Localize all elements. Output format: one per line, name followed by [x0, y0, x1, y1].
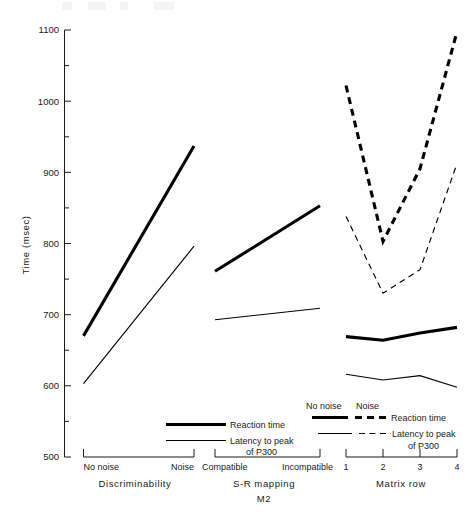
legend-right-label-latency-p300-line2: of P300 — [408, 441, 439, 451]
y-tick-label-1000: 1000 — [38, 96, 59, 107]
y-tick-label-600: 600 — [43, 380, 59, 391]
series-reaction-time-no-noise-panel3 — [346, 327, 457, 340]
series-latency-p300-no-noise-panel3 — [346, 374, 457, 387]
panel3-axis-title: Matrix row — [376, 478, 426, 489]
y-tick-label-500: 500 — [43, 451, 59, 462]
panel3-tick-label-2: 2 — [380, 462, 385, 472]
panel2-tick-label-compatible: Compatible — [202, 462, 248, 472]
legend-right-header-no-noise: No noise — [306, 401, 342, 411]
legend-right-label-latency-p300-line1: Latency to peak — [392, 429, 456, 439]
panel2-axis-title: S-R mapping — [233, 478, 295, 489]
panel1-axis-title: Discriminability — [99, 478, 172, 489]
legend-left-label-latency-p300-line2: of P300 — [246, 447, 277, 457]
legend-right-header-noise: Noise — [356, 401, 379, 411]
panel2-axis-subtitle: M2 — [257, 493, 271, 504]
series-latency-p300-panel1 — [84, 246, 195, 383]
panel2-tick-label-incompatible: Incompatible — [282, 462, 333, 472]
series-latency-p300-panel2 — [215, 308, 320, 319]
y-axis-title: Time (msec) — [20, 215, 31, 274]
legend-left: Reaction time Latency to peak of P300 — [166, 420, 294, 457]
panel1-tick-label-noise: Noise — [171, 462, 194, 472]
chart-figure: 1100 1000 900 800 700 600 500 Time (msec… — [0, 0, 467, 523]
panel3-tick-label-3: 3 — [417, 462, 422, 472]
legend-left-label-reaction-time: Reaction time — [230, 420, 285, 430]
series-latency-p300-noise-panel3 — [346, 164, 457, 294]
panel3-tick-label-4: 4 — [454, 462, 459, 472]
y-tick-label-800: 800 — [43, 238, 59, 249]
legend-right-label-reaction-time: Reaction time — [391, 413, 446, 423]
series-reaction-time-panel1 — [84, 146, 195, 336]
panel-sr-mapping: Compatible Incompatible S-R mapping M2 — [202, 206, 333, 504]
series-reaction-time-panel2 — [215, 206, 320, 271]
panel1-tick-label-no-noise: No noise — [84, 462, 120, 472]
legend-right: No noise Noise Reaction time Latency to … — [306, 401, 456, 451]
panel-discriminability: No noise Noise Discriminability — [84, 146, 195, 489]
y-tick-label-700: 700 — [43, 309, 59, 320]
y-tick-label-1100: 1100 — [39, 24, 59, 35]
panel3-tick-label-1: 1 — [343, 462, 348, 472]
y-tick-label-900: 900 — [43, 167, 59, 178]
legend-left-label-latency-p300-line1: Latency to peak — [230, 436, 294, 446]
y-axis: 1100 1000 900 800 700 600 500 Time (msec… — [20, 24, 71, 462]
chart-canvas: 1100 1000 900 800 700 600 500 Time (msec… — [0, 0, 467, 523]
